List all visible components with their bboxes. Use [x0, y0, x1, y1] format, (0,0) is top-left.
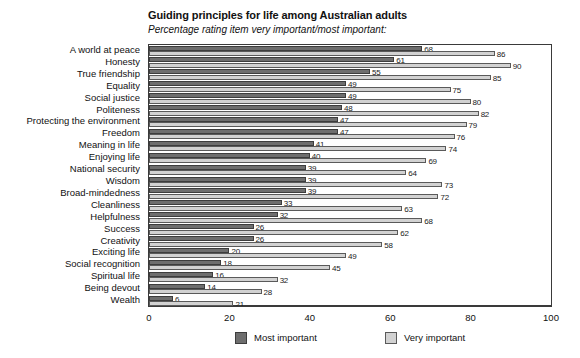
bar-group: 2658	[149, 236, 551, 248]
bar-most-important	[149, 57, 394, 62]
y-axis-label: Enjoying life	[89, 152, 140, 162]
y-axis-label: Cleanliness	[91, 200, 140, 210]
bar-very-important	[149, 182, 442, 187]
bar-group: 4975	[149, 81, 551, 93]
y-axis-label: Exciting life	[92, 247, 140, 257]
x-axis-tick-label: 100	[543, 312, 559, 323]
y-axis-label: Creativity	[100, 236, 140, 246]
bar-most-important	[149, 117, 338, 122]
bar-group: 3964	[149, 164, 551, 176]
bar-most-important	[149, 129, 338, 134]
bar-very-important	[149, 218, 422, 223]
x-axis-line	[148, 306, 552, 307]
bar-most-important	[149, 260, 221, 265]
bar-most-important	[149, 165, 306, 170]
bar-most-important	[149, 284, 205, 289]
bar-group: 5585	[149, 69, 551, 81]
y-axis-label: Broad-mindedness	[60, 188, 140, 198]
bar-very-important	[149, 289, 262, 294]
bar-group: 4882	[149, 105, 551, 117]
bar-most-important	[149, 224, 254, 229]
bar-group: 2049	[149, 247, 551, 259]
y-axis-label: Wealth	[111, 295, 140, 305]
chart-container: Guiding principles for life among Austra…	[0, 0, 580, 358]
x-axis: 020406080100	[148, 306, 552, 307]
title-block: Guiding principles for life among Austra…	[148, 9, 558, 36]
y-axis-label: Politeness	[96, 105, 140, 115]
x-axis-tick-label: 40	[305, 312, 316, 323]
bar-group: 1845	[149, 259, 551, 271]
y-axis-label: A world at peace	[70, 45, 140, 55]
x-axis-tick-label: 60	[385, 312, 396, 323]
legend-label: Most important	[254, 332, 317, 344]
bar-group: 4174	[149, 140, 551, 152]
bar-most-important	[149, 153, 310, 158]
bar-most-important	[149, 212, 278, 217]
bar-most-important	[149, 141, 314, 146]
y-axis-label: Protecting the environment	[26, 116, 140, 126]
bar-group: 2662	[149, 224, 551, 236]
y-axis-labels: A world at peaceHonestyTrue friendshipEq…	[0, 44, 144, 306]
bar-most-important	[149, 69, 370, 74]
legend-item: Very important	[385, 331, 465, 345]
chart-legend: Most importantVery important	[148, 331, 552, 347]
page-title: Guiding principles for life among Austra…	[148, 9, 558, 22]
bar-group: 3268	[149, 212, 551, 224]
bar-very-important	[149, 146, 446, 151]
x-axis-tick-label: 20	[224, 312, 235, 323]
y-axis-label: Being devout	[85, 283, 140, 293]
bar-most-important	[149, 248, 229, 253]
y-axis-label: Social recognition	[65, 259, 140, 269]
y-axis-label: Equality	[106, 81, 140, 91]
bar-most-important	[149, 296, 173, 301]
bar-group: 3363	[149, 200, 551, 212]
legend-swatch-most	[235, 332, 247, 344]
bar-group: 4980	[149, 93, 551, 105]
bar-most-important	[149, 46, 422, 51]
bar-group: 6886	[149, 45, 551, 57]
y-axis-label: Success	[104, 224, 140, 234]
y-axis-label: National security	[70, 164, 140, 174]
bar-very-important	[149, 194, 438, 199]
bar-group: 4069	[149, 152, 551, 164]
bar-group: 6190	[149, 57, 551, 69]
legend-label: Very important	[404, 332, 465, 344]
bar-most-important	[149, 81, 346, 86]
bar-group: 4779	[149, 116, 551, 128]
bar-group: 3972	[149, 188, 551, 200]
bar-most-important	[149, 272, 213, 277]
bar-most-important	[149, 105, 342, 110]
bar-group: 1428	[149, 283, 551, 295]
bar-very-important	[149, 87, 451, 92]
chart-subtitle: Percentage rating item very important/mo…	[148, 23, 558, 36]
y-axis-label: Spiritual life	[91, 271, 140, 281]
bar-group: 1632	[149, 271, 551, 283]
bar-very-important	[149, 63, 511, 68]
bar-very-important	[149, 122, 467, 127]
bar-most-important	[149, 93, 346, 98]
y-axis-label: Social justice	[85, 93, 140, 103]
bar-very-important	[149, 206, 402, 211]
bar-group: 4776	[149, 128, 551, 140]
bar-very-important	[149, 51, 495, 56]
bar-very-important	[149, 253, 346, 258]
y-axis-label: Wisdom	[106, 176, 140, 186]
bar-very-important	[149, 277, 278, 282]
bar-most-important	[149, 188, 306, 193]
y-axis-label: Helpfulness	[90, 212, 140, 222]
x-axis-tick-label: 80	[465, 312, 476, 323]
bar-very-important	[149, 265, 330, 270]
y-axis-label: Honesty	[105, 57, 140, 67]
bar-most-important	[149, 177, 306, 182]
bar-very-important	[149, 134, 455, 139]
bar-very-important	[149, 230, 398, 235]
y-axis-label: True friendship	[77, 69, 140, 79]
x-axis-tick-label: 0	[146, 312, 151, 323]
bar-group: 3973	[149, 176, 551, 188]
plot-area: 6886619055854975498048824779477641744069…	[148, 44, 552, 306]
y-axis-label: Freedom	[102, 128, 140, 138]
y-axis-label: Meaning in life	[79, 140, 140, 150]
bar-very-important	[149, 242, 382, 247]
bar-very-important	[149, 170, 406, 175]
legend-item: Most important	[235, 331, 317, 345]
